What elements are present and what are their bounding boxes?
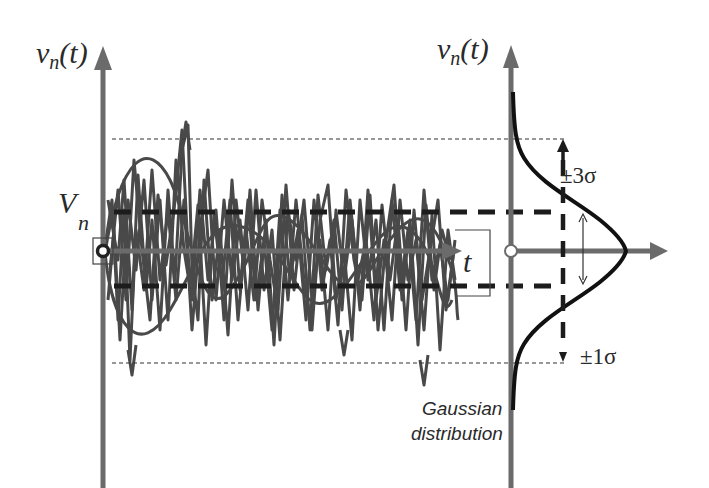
mean-voltage-label-main: V — [58, 186, 76, 219]
three-sigma-label: ±3σ — [560, 163, 597, 189]
distribution-horizontal-axis — [511, 242, 668, 260]
mean-voltage-label: V — [58, 186, 76, 220]
right-axis-label: vn(t) — [437, 32, 489, 70]
gaussian-label-line2: distribution — [411, 421, 503, 446]
left-axis-label-main: v — [36, 36, 49, 69]
origin-marker-icon — [98, 246, 109, 257]
left-axis-label-arg: (t) — [59, 36, 87, 69]
time-label: t — [463, 245, 471, 279]
mean-voltage-label-subscript: n — [78, 210, 89, 236]
gaussian-label-line1: Gaussian — [411, 396, 503, 421]
right-axis-label-arg: (t) — [460, 32, 488, 65]
one-sigma-arrow-icon — [559, 352, 567, 362]
right-vertical-axis — [503, 45, 519, 488]
distribution-origin-icon — [505, 245, 517, 257]
noise-diagram-canvas — [0, 0, 709, 488]
right-axis-label-sub: n — [450, 47, 460, 69]
gaussian-distribution-label: Gaussian distribution — [411, 396, 503, 446]
one-sigma-label: ±1σ — [580, 344, 617, 370]
right-axis-label-main: v — [437, 32, 450, 65]
mean-voltage-label-sub: n — [78, 210, 89, 235]
left-axis-label: vn(t) — [36, 36, 88, 74]
left-axis-label-sub: n — [49, 51, 59, 73]
